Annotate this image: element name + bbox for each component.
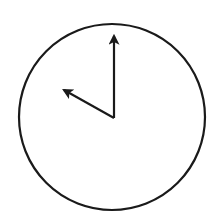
clock-diagram [0, 0, 216, 224]
clock-svg [0, 0, 216, 224]
